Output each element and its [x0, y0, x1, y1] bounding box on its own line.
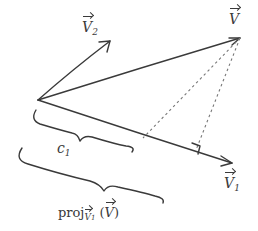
right-angle-marker [192, 143, 200, 154]
label-proj-prefix: proj [58, 205, 84, 220]
label-c1-sub: 1 [65, 148, 71, 158]
label-v2-base: V [82, 19, 92, 35]
label-v: V [229, 12, 239, 26]
label-proj-arg: V [105, 205, 114, 220]
label-proj: projV1 (V) [58, 206, 119, 222]
label-proj-close-paren: ) [114, 205, 119, 220]
label-v1-base: V [224, 175, 234, 191]
label-c1-base: c [57, 140, 65, 156]
c1-brace [34, 110, 133, 152]
proj-brace [19, 148, 163, 203]
vector-v [38, 38, 240, 100]
vector-arrow-icon: V [105, 206, 114, 219]
label-v2-sub: 2 [92, 27, 98, 37]
label-v1-sub: 1 [234, 183, 240, 193]
dotted-line-perpendicular [196, 38, 240, 150]
vector-v2 [38, 41, 110, 100]
label-v2: V2 [82, 20, 98, 37]
vector-arrow-icon: V [229, 12, 239, 26]
label-c1: c1 [57, 141, 71, 158]
label-v1: V1 [224, 176, 240, 193]
vector-arrow-icon: V [82, 20, 92, 34]
label-proj-open-paren: ( [95, 205, 104, 220]
label-v-base: V [229, 11, 239, 27]
vector-projection-diagram [0, 0, 258, 231]
vector-arrow-icon: V [224, 176, 234, 190]
vector-arrow-icon: V [84, 213, 91, 222]
label-proj-sub-base: V [84, 212, 91, 222]
